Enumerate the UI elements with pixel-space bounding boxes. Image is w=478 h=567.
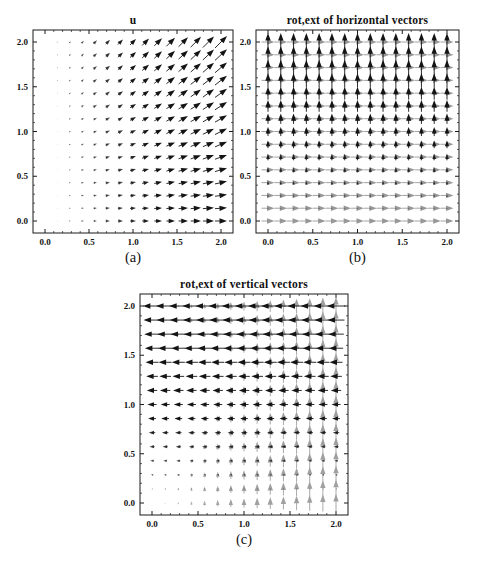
svg-text:1.0: 1.0	[127, 237, 139, 247]
svg-text:1.5: 1.5	[240, 82, 252, 92]
svg-text:0.5: 0.5	[17, 171, 29, 181]
plot-a-tick-labels: 0.00.00.50.51.01.01.51.52.02.0	[17, 37, 227, 247]
svg-text:1.0: 1.0	[124, 400, 136, 410]
svg-text:0.5: 0.5	[192, 519, 204, 529]
svg-text:0.5: 0.5	[240, 171, 252, 181]
svg-text:0.0: 0.0	[262, 237, 274, 247]
plot-a-field-u-field	[57, 36, 227, 224]
svg-text:0.0: 0.0	[39, 237, 51, 247]
svg-text:2.0: 2.0	[124, 301, 136, 311]
figure-canvas: 0.00.00.50.51.01.01.51.52.02.00.00.00.50…	[0, 0, 478, 567]
plot-a-caption: (a)	[33, 249, 233, 265]
plot-c-title: rot,ext of vertical vectors	[140, 278, 348, 291]
svg-text:0.0: 0.0	[146, 519, 158, 529]
svg-text:2.0: 2.0	[240, 37, 252, 47]
svg-text:1.5: 1.5	[17, 82, 29, 92]
plot-a-title: u	[33, 14, 233, 27]
svg-text:0.5: 0.5	[83, 237, 95, 247]
svg-text:0.0: 0.0	[124, 498, 136, 508]
svg-text:1.5: 1.5	[284, 519, 296, 529]
plot-c-caption: (c)	[140, 531, 348, 547]
quiver-plot-c: 0.00.00.50.51.01.01.51.52.02.0	[124, 294, 348, 529]
svg-text:2.0: 2.0	[17, 37, 29, 47]
svg-text:0.0: 0.0	[17, 216, 29, 226]
quiver-plot-b: 0.00.00.50.51.01.01.51.52.02.0	[240, 30, 459, 247]
svg-text:1.5: 1.5	[124, 350, 136, 360]
svg-text:1.5: 1.5	[171, 237, 183, 247]
svg-text:2.0: 2.0	[441, 237, 453, 247]
plot-b-title: rot,ext of horizontal vectors	[256, 14, 459, 27]
svg-text:0.5: 0.5	[124, 449, 136, 459]
svg-text:1.0: 1.0	[17, 127, 29, 137]
svg-text:1.5: 1.5	[397, 237, 409, 247]
svg-text:0.0: 0.0	[240, 216, 252, 226]
quiver-plot-a: 0.00.00.50.51.01.01.51.52.02.0	[17, 30, 233, 247]
svg-text:1.0: 1.0	[352, 237, 364, 247]
svg-text:0.5: 0.5	[307, 237, 319, 247]
svg-text:1.0: 1.0	[238, 519, 250, 529]
svg-text:2.0: 2.0	[215, 237, 227, 247]
plot-b-caption: (b)	[256, 249, 459, 265]
svg-text:2.0: 2.0	[330, 519, 342, 529]
svg-text:1.0: 1.0	[240, 127, 252, 137]
